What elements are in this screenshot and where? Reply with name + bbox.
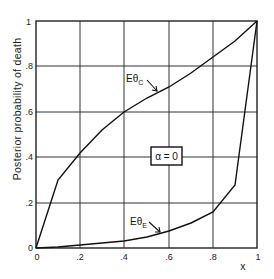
svg-text:1: 1: [26, 17, 31, 27]
label-theta-c: EθC: [126, 73, 143, 86]
arrow-theta-c: [147, 80, 157, 91]
y-tick-labels: 1 .8 .6 .4 .2 0: [25, 17, 33, 253]
plot-frame: [36, 21, 257, 248]
svg-text:.2: .2: [25, 198, 33, 208]
svg-text:0: 0: [34, 252, 39, 262]
svg-text:0: 0: [28, 243, 33, 253]
svg-text:1: 1: [255, 252, 260, 262]
curve-theta-c: [36, 21, 257, 248]
svg-text:.4: .4: [25, 152, 33, 162]
svg-text:.4: .4: [120, 252, 128, 262]
x-axis-label: x: [240, 260, 246, 272]
svg-text:.8: .8: [209, 252, 217, 262]
alpha-annotation: α = 0: [151, 147, 182, 165]
gridlines: [36, 21, 257, 248]
svg-text:.8: .8: [25, 61, 33, 71]
svg-text:α = 0: α = 0: [155, 151, 178, 162]
curve-theta-e: [36, 21, 257, 248]
chart: EθC EθE α = 0 1 .8 .6 .4 .2 0 0 .2 .4 .6…: [0, 0, 274, 279]
arrow-theta-e: [149, 222, 160, 232]
svg-text:.2: .2: [76, 252, 84, 262]
x-tick-labels: 0 .2 .4 .6 .8 1: [34, 252, 260, 262]
label-theta-e: EθE: [130, 216, 147, 229]
svg-text:.6: .6: [165, 252, 173, 262]
y-axis-label: Posterior probability of death: [11, 38, 23, 181]
svg-text:.6: .6: [25, 107, 33, 117]
